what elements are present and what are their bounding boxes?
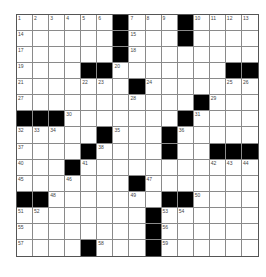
crossword-cell[interactable]: 4 [65,15,81,31]
crossword-cell[interactable] [97,208,113,224]
crossword-cell[interactable] [146,31,162,47]
crossword-cell[interactable] [178,160,194,176]
crossword-cell[interactable] [178,79,194,95]
crossword-cell[interactable] [226,224,242,240]
crossword-cell[interactable] [194,79,210,95]
crossword-cell[interactable] [242,208,258,224]
crossword-cell[interactable] [146,127,162,143]
crossword-cell[interactable] [226,176,242,192]
crossword-cell[interactable] [33,224,49,240]
crossword-cell[interactable] [146,63,162,79]
crossword-cell[interactable] [210,31,226,47]
crossword-cell[interactable] [97,111,113,127]
crossword-cell[interactable] [194,47,210,63]
crossword-cell[interactable] [162,31,178,47]
crossword-cell[interactable] [146,111,162,127]
crossword-cell[interactable] [49,47,65,63]
crossword-cell[interactable]: 3 [49,15,65,31]
crossword-cell[interactable]: 14 [17,31,33,47]
crossword-cell[interactable] [210,176,226,192]
crossword-cell[interactable] [178,47,194,63]
crossword-cell[interactable] [81,47,97,63]
crossword-cell[interactable] [97,31,113,47]
crossword-cell[interactable]: 43 [226,160,242,176]
crossword-cell[interactable] [49,63,65,79]
crossword-cell[interactable] [242,127,258,143]
crossword-cell[interactable] [178,176,194,192]
crossword-cell[interactable]: 40 [17,160,33,176]
crossword-cell[interactable] [129,160,145,176]
crossword-cell[interactable] [113,95,129,111]
crossword-cell[interactable]: 1 [17,15,33,31]
crossword-cell[interactable] [97,224,113,240]
crossword-cell[interactable] [113,176,129,192]
crossword-cell[interactable]: 7 [129,15,145,31]
crossword-cell[interactable] [242,176,258,192]
crossword-cell[interactable] [129,224,145,240]
crossword-cell[interactable]: 22 [81,79,97,95]
crossword-cell[interactable] [97,47,113,63]
crossword-cell[interactable]: 15 [129,31,145,47]
crossword-cell[interactable] [65,47,81,63]
crossword-cell[interactable] [81,127,97,143]
crossword-cell[interactable] [194,224,210,240]
crossword-cell[interactable]: 55 [17,224,33,240]
crossword-cell[interactable] [113,160,129,176]
crossword-cell[interactable] [210,47,226,63]
crossword-cell[interactable]: 42 [210,160,226,176]
crossword-cell[interactable]: 58 [97,240,113,256]
crossword-cell[interactable]: 47 [146,176,162,192]
crossword-cell[interactable]: 59 [162,240,178,256]
crossword-cell[interactable] [65,144,81,160]
crossword-cell[interactable] [49,95,65,111]
crossword-cell[interactable] [65,79,81,95]
crossword-cell[interactable] [210,192,226,208]
crossword-cell[interactable] [129,208,145,224]
crossword-cell[interactable] [210,224,226,240]
crossword-cell[interactable] [33,79,49,95]
crossword-cell[interactable]: 8 [146,15,162,31]
crossword-cell[interactable]: 37 [17,144,33,160]
crossword-cell[interactable] [162,47,178,63]
crossword-cell[interactable]: 31 [194,111,210,127]
crossword-cell[interactable]: 13 [242,15,258,31]
crossword-cell[interactable] [33,240,49,256]
crossword-cell[interactable] [81,31,97,47]
crossword-cell[interactable] [81,111,97,127]
crossword-cell[interactable] [33,95,49,111]
crossword-cell[interactable]: 21 [17,79,33,95]
crossword-cell[interactable] [162,95,178,111]
crossword-cell[interactable]: 46 [65,176,81,192]
crossword-cell[interactable] [113,79,129,95]
crossword-cell[interactable]: 17 [17,47,33,63]
crossword-cell[interactable]: 38 [97,144,113,160]
crossword-cell[interactable]: 41 [81,160,97,176]
crossword-cell[interactable] [65,192,81,208]
crossword-cell[interactable] [226,31,242,47]
crossword-cell[interactable] [146,144,162,160]
crossword-cell[interactable] [33,160,49,176]
crossword-cell[interactable] [65,127,81,143]
crossword-cell[interactable] [242,47,258,63]
crossword-cell[interactable] [178,240,194,256]
crossword-cell[interactable] [33,144,49,160]
crossword-cell[interactable] [226,95,242,111]
crossword-cell[interactable] [194,240,210,256]
crossword-cell[interactable] [49,160,65,176]
crossword-cell[interactable]: 24 [146,79,162,95]
crossword-cell[interactable] [129,63,145,79]
crossword-cell[interactable] [226,192,242,208]
crossword-cell[interactable] [210,79,226,95]
crossword-cell[interactable] [210,63,226,79]
crossword-cell[interactable]: 54 [178,208,194,224]
crossword-cell[interactable] [178,224,194,240]
crossword-cell[interactable] [146,95,162,111]
crossword-cell[interactable] [97,176,113,192]
crossword-cell[interactable] [113,111,129,127]
crossword-cell[interactable]: 34 [49,127,65,143]
crossword-cell[interactable] [242,31,258,47]
crossword-cell[interactable] [33,31,49,47]
crossword-cell[interactable] [33,47,49,63]
crossword-cell[interactable] [49,208,65,224]
crossword-cell[interactable] [194,63,210,79]
